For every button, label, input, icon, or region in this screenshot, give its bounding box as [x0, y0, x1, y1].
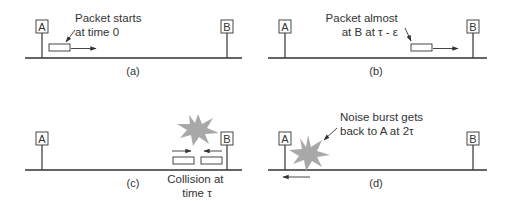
annotation: Collision at time τ: [167, 173, 226, 199]
annotation: Noise burst gets back to A at 2τ: [340, 111, 426, 137]
collision-burst-icon: [177, 114, 219, 146]
caption: (a): [126, 65, 139, 77]
caption: (d): [369, 177, 382, 189]
station-a: A: [279, 132, 291, 170]
panel-d: A B Noise burst gets back to A at 2τ (d): [268, 111, 487, 189]
svg-text:A: A: [38, 133, 46, 145]
station-b: B: [221, 20, 233, 58]
panel-a: A B Packet starts at time 0 (a): [25, 12, 242, 77]
csma-cd-collision-diagram: A B Packet starts at time 0 (a) A B: [0, 0, 511, 201]
annotation: Packet almost at B at τ - ε: [326, 12, 401, 38]
station-b: B: [467, 20, 479, 58]
panel-b: A B Packet almost at B at τ - ε (b): [268, 12, 487, 77]
packet: [411, 44, 432, 51]
station-a: A: [36, 132, 48, 170]
station-b: B: [467, 132, 479, 170]
svg-text:A: A: [281, 21, 289, 33]
svg-text:B: B: [223, 133, 230, 145]
svg-text:B: B: [223, 21, 230, 33]
packet: [201, 157, 222, 164]
caption: (c): [127, 177, 140, 189]
svg-text:B: B: [469, 21, 476, 33]
pointer-line: [66, 30, 75, 42]
svg-text:A: A: [281, 133, 289, 145]
annotation: Packet starts at time 0: [75, 12, 145, 38]
svg-text:B: B: [469, 133, 476, 145]
station-a: A: [279, 20, 291, 58]
caption: (b): [369, 65, 382, 77]
packet: [173, 157, 194, 164]
panel-c: A B Collision at time τ (c): [25, 114, 242, 199]
pointer-line: [405, 28, 411, 41]
packet: [49, 44, 70, 51]
noise-burst-icon: [289, 135, 330, 171]
svg-text:A: A: [38, 21, 46, 33]
station-a: A: [36, 20, 48, 58]
pointer-line: [324, 128, 337, 140]
station-b: B: [221, 132, 233, 170]
